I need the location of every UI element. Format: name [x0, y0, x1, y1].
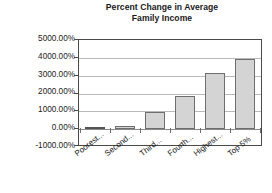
x-tick-mark: [260, 128, 261, 133]
x-tick-mark: [230, 128, 231, 133]
x-axis-ticks: [78, 39, 262, 146]
chart-title-line-1: Percent Change in Average: [56, 2, 268, 13]
x-tick-mark: [110, 128, 111, 133]
chart-title-line-2: Family Income: [56, 13, 268, 24]
chart-title: Percent Change in Average Family Income: [56, 2, 268, 23]
y-axis-ticks: [0, 39, 80, 146]
bar-chart: Percent Change in Average Family Income …: [0, 0, 272, 193]
x-tick-mark: [200, 128, 201, 133]
x-axis-labels: Poorest... Second... Third... Fourth... …: [78, 146, 262, 193]
x-tick-mark: [170, 128, 171, 133]
x-tick-mark: [80, 128, 81, 133]
x-tick-mark: [140, 128, 141, 133]
